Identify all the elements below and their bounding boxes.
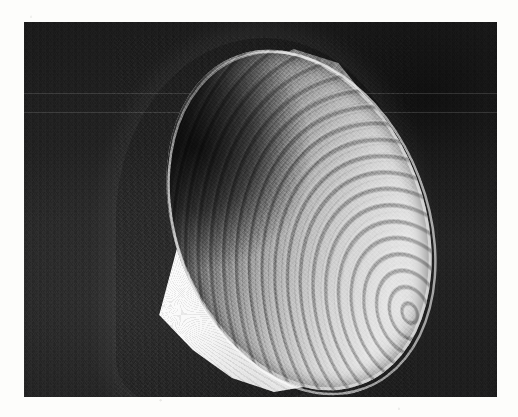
cone-figure xyxy=(24,22,497,397)
figure-panel xyxy=(24,22,497,397)
figure-page xyxy=(0,0,518,417)
figure-caption xyxy=(24,400,497,414)
cone-rim-highlight xyxy=(116,22,488,397)
